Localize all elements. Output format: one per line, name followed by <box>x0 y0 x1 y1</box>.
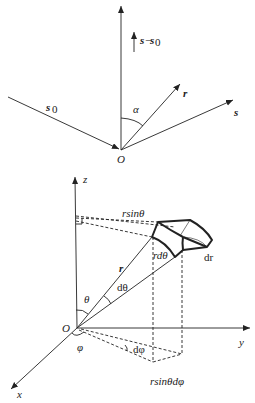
x-axis <box>11 328 77 389</box>
alpha-label: α <box>133 103 139 115</box>
dtheta-arc <box>104 296 111 304</box>
theta-label: θ <box>84 293 90 305</box>
bottom-labels: z y x O r θ dθ φ dφ rsinθ rdθ dr rsinθdφ <box>16 173 244 400</box>
dphi-label: dφ <box>133 343 145 355</box>
phi-label: φ <box>77 341 83 353</box>
scattering-vector-diagram <box>8 6 233 150</box>
theta-arc <box>76 310 88 314</box>
origin-label-top: O <box>117 153 125 165</box>
rsinthetadphi-label: rsinθdφ <box>150 375 184 387</box>
x-label: x <box>16 388 22 400</box>
rdtheta-label: rdθ <box>153 249 168 261</box>
incident-label: s <box>45 101 50 113</box>
y-label: y <box>238 336 244 348</box>
origin-label-bottom: O <box>62 322 70 334</box>
position-vector-r <box>121 84 180 150</box>
r-label: r <box>119 262 124 274</box>
z-label: z <box>82 173 88 185</box>
z-axis <box>75 177 77 328</box>
ray-r <box>77 237 152 328</box>
difference-label-s0: s <box>149 34 154 46</box>
spherical-coordinates-figure: O s 0 r s α s − s 0 <box>0 0 255 403</box>
position-label: r <box>183 87 188 99</box>
incident-subscript: 0 <box>52 103 58 115</box>
incident-vector-s0 <box>8 97 119 149</box>
difference-label-s: s <box>139 34 144 46</box>
dtheta-label: dθ <box>117 281 128 293</box>
top-labels: O s 0 r s α s − s 0 <box>45 34 238 165</box>
dr-label: dr <box>204 251 214 263</box>
phi-arc <box>72 332 84 335</box>
scattered-label: s <box>233 106 238 118</box>
construction-lines <box>76 216 182 362</box>
alpha-angle-arc <box>121 118 143 126</box>
rsintheta-label: rsinθ <box>122 207 145 219</box>
difference-subscript: 0 <box>155 36 161 48</box>
